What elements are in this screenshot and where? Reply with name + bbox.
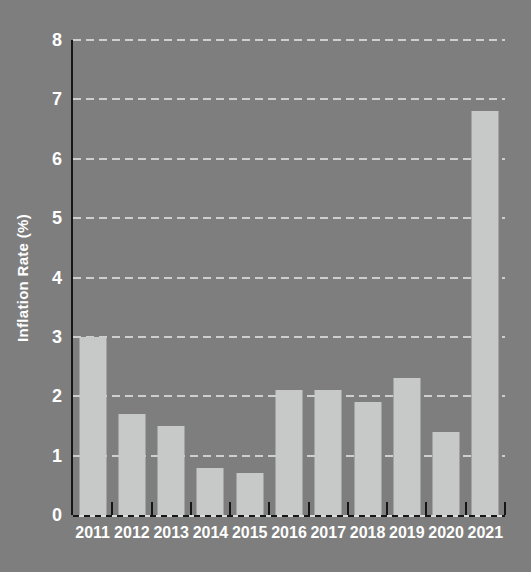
gridline-7 (73, 98, 505, 100)
ytick-label-1: 1 (0, 447, 62, 465)
xtick-label-2019: 2019 (389, 525, 425, 541)
xtick-label-2016: 2016 (271, 525, 307, 541)
xtick-mark (268, 502, 270, 515)
gridline-8 (73, 39, 505, 41)
bar-2015 (236, 473, 263, 515)
ytick-label-0: 0 (0, 506, 62, 524)
xtick-label-2014: 2014 (193, 525, 229, 541)
bar-2018 (354, 402, 381, 515)
bar-2011 (79, 337, 106, 515)
bar-2016 (276, 390, 303, 515)
x-axis-line (73, 515, 505, 517)
ytick-label-3: 3 (0, 328, 62, 346)
xtick-mark (386, 502, 388, 515)
gridline-3 (73, 336, 505, 338)
xtick-label-2013: 2013 (153, 525, 189, 541)
xtick-mark (425, 502, 427, 515)
xtick-mark (190, 502, 192, 515)
xtick-label-2017: 2017 (310, 525, 346, 541)
bar-chart: Inflation Rate (%) 012345678201120122013… (0, 0, 531, 572)
xtick-label-2018: 2018 (350, 525, 386, 541)
ytick-label-5: 5 (0, 209, 62, 227)
ytick-label-4: 4 (0, 269, 62, 287)
bar-2020 (433, 432, 460, 515)
xtick-mark (347, 502, 349, 515)
gridline-4 (73, 277, 505, 279)
bar-2014 (197, 468, 224, 516)
bar-2019 (393, 378, 420, 515)
xtick-label-2011: 2011 (75, 525, 110, 541)
xtick-mark (229, 502, 231, 515)
bar-2017 (315, 390, 342, 515)
xtick-mark (308, 502, 310, 515)
xtick-label-2021: 2021 (468, 525, 504, 541)
xtick-mark (504, 502, 506, 515)
gridline-6 (73, 158, 505, 160)
bar-2012 (118, 414, 145, 515)
xtick-label-2012: 2012 (114, 525, 150, 541)
xtick-mark (465, 502, 467, 515)
ytick-label-7: 7 (0, 90, 62, 108)
ytick-label-6: 6 (0, 150, 62, 168)
ytick-label-2: 2 (0, 387, 62, 405)
bar-2021 (472, 111, 499, 515)
xtick-mark (151, 502, 153, 515)
xtick-mark (111, 502, 113, 515)
plot-area (73, 40, 505, 515)
xtick-label-2015: 2015 (232, 525, 268, 541)
xtick-label-2020: 2020 (428, 525, 464, 541)
gridline-5 (73, 217, 505, 219)
bar-2013 (158, 426, 185, 515)
ytick-label-8: 8 (0, 31, 62, 49)
